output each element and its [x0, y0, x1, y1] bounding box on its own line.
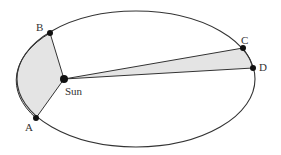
label-b: B	[36, 22, 43, 33]
point-a	[33, 115, 39, 121]
point-d	[250, 65, 256, 71]
sector-ab	[16, 33, 64, 118]
label-a: A	[25, 122, 33, 133]
point-b	[47, 30, 53, 36]
label-sun: Sun	[65, 86, 82, 97]
sector-cd	[64, 48, 253, 79]
label-d: D	[259, 62, 267, 73]
label-c: C	[241, 35, 248, 46]
kepler-orbit-diagram: B A C D Sun	[0, 0, 281, 155]
sun-icon	[60, 75, 68, 83]
